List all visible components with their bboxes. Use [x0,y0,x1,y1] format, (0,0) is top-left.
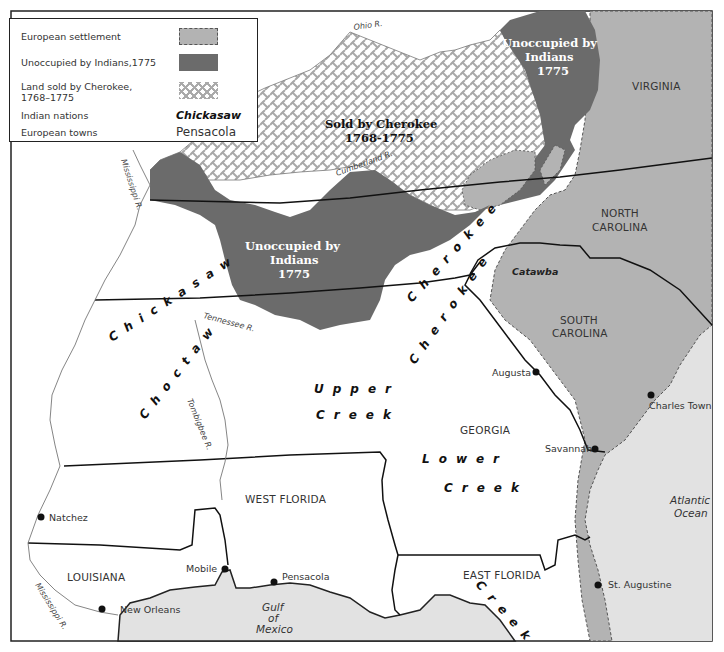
nation-lower-creek-2: Creek [444,481,528,495]
town-dot [648,392,655,399]
town-dot [271,579,278,586]
legend-swatch-sold-by-cherokee [179,82,218,99]
map-legend: European settlement Unoccupied by Indian… [9,18,258,142]
label-east-florida: EAST FLORIDA [463,569,542,581]
town-label: St. Augustine [608,579,672,590]
sold-by-cherokee-label-2: 1768-1775 [345,131,414,145]
legend-swatch-european-settlement [179,28,218,45]
town-label: Mobile [186,563,217,574]
label-north-carolina-2: CAROLINA [592,221,648,233]
legend-label-european-settlement: European settlement [21,31,121,42]
unoccupied-central-label-1: Unoccupied by [245,239,340,253]
gulf-label-3: Mexico [256,623,293,635]
town-label: Savannah [545,443,592,454]
legend-sample-european-town: Pensacola [176,125,236,139]
legend-label-european-towns: European towns [21,127,98,138]
town-dot [38,514,45,521]
town-dot [592,446,599,453]
town-dot [99,606,106,613]
legend-label-indian-nations: Indian nations [21,110,88,121]
unoccupied-north-label-1: Unoccupied by [502,36,597,50]
unoccupied-north-label-3: 1775 [537,64,569,78]
nation-catawba: Catawba [512,266,558,277]
label-georgia: GEORGIA [460,424,511,436]
town-dot [595,582,602,589]
unoccupied-central-label-2: Indians [270,253,318,267]
town-label: Pensacola [282,571,330,582]
label-west-florida: WEST FLORIDA [245,493,327,505]
atlantic-label-1: Atlantic [669,494,710,506]
town-label: Charles Town [649,400,712,411]
town-savannah: Savannah [545,443,599,454]
label-louisiana: LOUISIANA [67,571,126,583]
town-dot [222,566,229,573]
unoccupied-north-label-2: Indians [525,50,573,64]
label-virginia: VIRGINIA [632,80,681,92]
label-south-carolina-2: CAROLINA [552,327,608,339]
legend-swatch-unoccupied [179,54,218,71]
unoccupied-central-label-3: 1775 [278,267,310,281]
town-label: Natchez [49,512,88,523]
legend-sample-indian-nation: Chickasaw [176,109,241,122]
nation-upper-creek-1: Upper [314,382,400,396]
nation-lower-creek-1: Lower [422,452,508,466]
town-label: Augusta [492,367,531,378]
sold-by-cherokee-label-1: Sold by Cherokee [325,117,437,131]
legend-label-unoccupied: Unoccupied by Indians,1775 [21,57,156,68]
label-south-carolina-1: SOUTH [560,314,598,326]
label-north-carolina-1: NORTH [601,207,639,219]
legend-label-sold-line1: Land sold by Cherokee, [21,81,132,92]
atlantic-label-2: Ocean [674,507,708,519]
town-dot [533,369,540,376]
legend-label-sold-line2: 1768–1775 [21,92,74,103]
town-label: New Orleans [120,604,180,615]
nation-upper-creek-2: Creek [316,408,400,422]
